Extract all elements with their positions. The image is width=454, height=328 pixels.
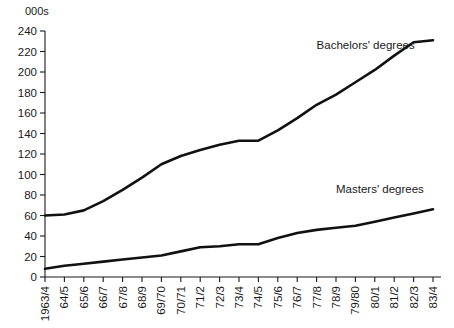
x-tick-label: 75/6: [272, 286, 284, 308]
x-tick-label: 66/7: [97, 286, 109, 308]
y-tick-marks: [40, 31, 45, 277]
line-chart: 000s 020406080100120140160180200220240 1…: [0, 0, 454, 328]
y-tick-label: 80: [24, 189, 37, 201]
x-tick-label: 71/2: [194, 286, 206, 308]
x-tick-label: 68/9: [136, 286, 148, 308]
x-tick-label: 79/80: [349, 286, 361, 315]
series-annotation-2: Masters' degrees: [336, 183, 424, 195]
y-tick-label: 120: [18, 148, 37, 160]
x-tick-label: 74/5: [252, 286, 264, 308]
x-tick-label: 78/9: [330, 286, 342, 308]
x-tick-label: 80/1: [369, 286, 381, 308]
y-tick-label: 240: [18, 25, 37, 37]
x-tick-label: 1963/4: [39, 285, 51, 321]
chart-canvas: 000s 020406080100120140160180200220240 1…: [0, 0, 454, 328]
x-tick-label: 65/6: [78, 286, 90, 308]
series-annotations: Bachelors' degreesMasters' degrees: [317, 39, 424, 195]
data-series-group: [45, 40, 433, 269]
x-tick-label: 76/7: [291, 286, 303, 308]
x-tick-label: 69/70: [155, 286, 167, 315]
x-tick-label: 83/4: [427, 285, 439, 308]
x-tick-label: 82/3: [408, 286, 420, 308]
y-tick-label: 0: [31, 271, 37, 283]
y-tick-label: 180: [18, 87, 37, 99]
x-tick-label: 67/8: [117, 286, 129, 308]
y-tick-label: 200: [18, 66, 37, 78]
x-tick-label: 81/2: [388, 286, 400, 308]
y-tick-labels: 020406080100120140160180200220240: [18, 25, 37, 283]
x-tick-marks: [45, 277, 433, 282]
y-tick-label: 160: [18, 107, 37, 119]
y-tick-label: 220: [18, 46, 37, 58]
y-tick-label: 40: [24, 230, 37, 242]
x-tick-label: 64/5: [58, 286, 70, 308]
x-tick-label: 77/8: [311, 286, 323, 308]
x-tick-label: 72/3: [214, 286, 226, 308]
y-tick-label: 140: [18, 128, 37, 140]
y-tick-label: 100: [18, 169, 37, 181]
y-axis-unit-label: 000s: [25, 5, 49, 17]
y-tick-label: 20: [24, 251, 37, 263]
y-tick-label: 60: [24, 210, 37, 222]
x-tick-label: 73/4: [233, 285, 245, 308]
series-line-2: [45, 209, 433, 268]
x-tick-labels: 1963/464/565/666/767/868/969/7070/7171/2…: [39, 285, 439, 321]
series-annotation-1: Bachelors' degrees: [317, 39, 415, 51]
x-tick-label: 70/71: [175, 286, 187, 315]
